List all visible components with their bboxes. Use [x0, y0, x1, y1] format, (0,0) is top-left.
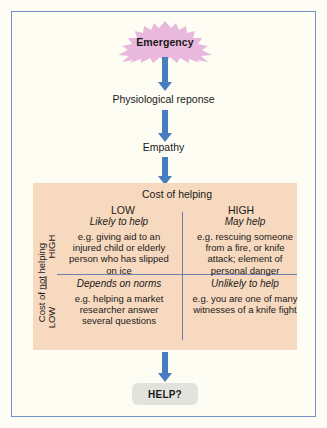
column-axis-title: Cost of helping: [57, 188, 297, 200]
cell-example: e.g. giving aid to an injured child or e…: [65, 231, 173, 277]
matrix-cell-may-help: May help e.g. rescuing someone from a fi…: [185, 216, 305, 276]
arrow-shaft: [162, 157, 168, 176]
empathy-label: Empathy: [0, 141, 327, 153]
row-header-high: HIGH: [46, 225, 57, 269]
row-header-low: LOW: [46, 298, 57, 338]
column-header-high: HIGH: [196, 204, 286, 216]
arrow-matrix-to-help: [158, 352, 172, 382]
physiological-response-label: Physiological reponse: [0, 93, 327, 105]
arrow-shaft: [162, 57, 168, 82]
help-label: HELP?: [148, 389, 182, 400]
arrow-shaft: [162, 110, 168, 133]
help-outcome-box: HELP?: [132, 383, 198, 405]
row-axis-group: Cost of not helping HIGH LOW: [27, 219, 51, 350]
cell-heading: Unlikely to help: [191, 278, 299, 290]
cell-heading: Depends on norms: [65, 278, 173, 290]
matrix-vertical-divider: [182, 212, 183, 340]
cell-heading: Likely to help: [65, 216, 173, 228]
arrow-empathy-to-matrix: [158, 157, 172, 185]
matrix-cell-unlikely-to-help: Unlikely to help e.g. you are one of man…: [185, 278, 305, 315]
arrow-shaft: [162, 352, 168, 373]
cost-reward-matrix: Cost of helping LOW HIGH Cost of not hel…: [33, 183, 297, 350]
arrow-emergency-to-physiological: [158, 57, 172, 91]
cell-heading: May help: [191, 216, 299, 228]
arrow-head: [158, 82, 172, 91]
cell-example: e.g. you are one of many witnesses of a …: [191, 293, 299, 316]
flowchart-diagram: Emergency Physiological reponse Empathy …: [0, 0, 327, 428]
cell-example: e.g. helping a market researcher answer …: [65, 293, 173, 327]
matrix-cell-likely-to-help: Likely to help e.g. giving aid to an inj…: [59, 216, 179, 276]
arrow-head: [158, 373, 172, 382]
matrix-cell-depends-on-norms: Depends on norms e.g. helping a market r…: [59, 278, 179, 327]
column-header-low: LOW: [78, 204, 168, 216]
arrow-physiological-to-empathy: [158, 110, 172, 142]
cell-example: e.g. rescuing someone from a fire, or kn…: [191, 231, 299, 277]
